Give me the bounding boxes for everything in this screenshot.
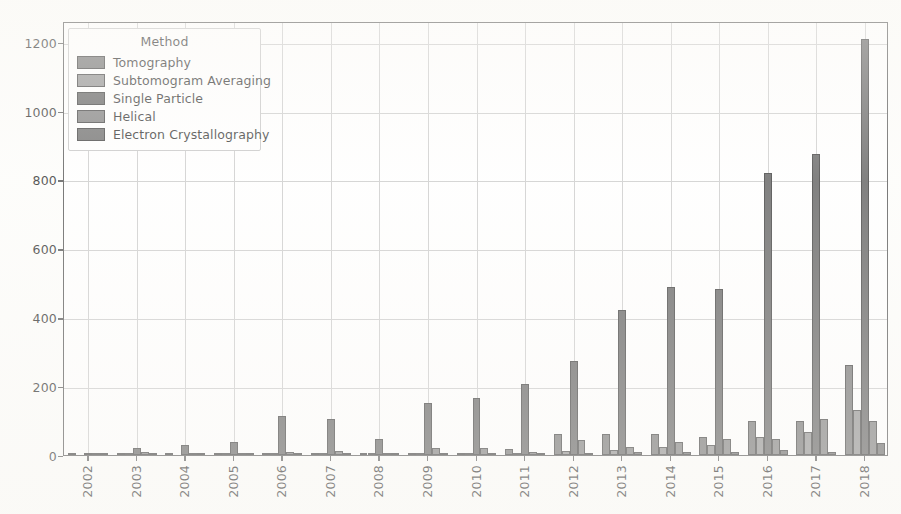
legend-label: Subtomogram Averaging <box>113 73 271 88</box>
bar <box>222 453 230 455</box>
x-axis-tick-label: 2015 <box>711 465 726 498</box>
bar <box>214 453 222 455</box>
x-axis-tick-label: 2009 <box>420 465 435 498</box>
y-axis-tick-label: 1200 <box>24 35 57 50</box>
bar <box>375 439 383 455</box>
bar <box>230 442 238 455</box>
legend-entries: TomographySubtomogram AveragingSingle Pa… <box>77 53 252 143</box>
bar <box>149 453 157 455</box>
bar <box>335 451 343 455</box>
x-axis-tick-label: 2018 <box>857 465 872 498</box>
x-axis-tick-mark <box>330 456 331 461</box>
bar <box>731 452 739 455</box>
x-axis-tick-mark <box>573 456 574 461</box>
bar <box>715 289 723 455</box>
legend-entry-tomography: Tomography <box>77 53 252 71</box>
bar <box>820 419 828 455</box>
bar <box>723 439 731 455</box>
bar <box>562 451 570 455</box>
bar <box>610 450 618 455</box>
y-axis-tick-label: 1000 <box>24 104 57 119</box>
bar <box>197 453 205 455</box>
legend-swatch-icon <box>77 56 105 69</box>
y-axis-tick-mark <box>58 456 63 457</box>
bar <box>845 365 853 455</box>
x-axis-tick-label: 2007 <box>323 465 338 498</box>
bar <box>343 453 351 455</box>
bar <box>861 39 869 455</box>
bar <box>133 448 141 455</box>
bar <box>165 453 173 455</box>
legend-entry-helical: Helical <box>77 107 252 125</box>
legend-label: Tomography <box>113 55 191 70</box>
x-axis-tick-label: 2016 <box>760 465 775 498</box>
bar <box>319 453 327 455</box>
x-axis-tick-mark <box>281 456 282 461</box>
y-axis-tick-label: 0 <box>49 449 57 464</box>
x-axis-tick-label: 2003 <box>129 465 144 498</box>
bar <box>570 361 578 455</box>
bar <box>675 442 683 455</box>
bar <box>529 452 537 455</box>
bar <box>651 434 659 455</box>
bar <box>521 384 529 455</box>
bar <box>278 416 286 455</box>
bar <box>368 453 376 455</box>
bar <box>457 453 465 455</box>
bar <box>473 398 481 455</box>
bar <box>125 453 133 455</box>
bar <box>699 437 707 455</box>
y-axis-tick-label: 200 <box>33 380 57 395</box>
bar <box>780 450 788 455</box>
x-axis-tick-label: 2008 <box>371 465 386 498</box>
legend-swatch-icon <box>77 92 105 105</box>
bar <box>440 453 448 455</box>
bar <box>391 453 399 455</box>
bar <box>618 310 626 455</box>
bar <box>505 449 513 455</box>
chart-legend: Method TomographySubtomogram AveragingSi… <box>68 28 261 151</box>
y-axis-labels: 020040060080010001200 <box>0 0 57 514</box>
bar <box>432 448 440 455</box>
bar <box>804 432 812 455</box>
x-axis-tick-label: 2011 <box>517 465 532 498</box>
bar <box>286 452 294 455</box>
x-axis-tick-mark <box>864 456 865 461</box>
x-axis-tick-mark <box>767 456 768 461</box>
bar <box>238 453 246 455</box>
legend-swatch-icon <box>77 74 105 87</box>
x-axis-tick-label: 2004 <box>177 465 192 498</box>
bar <box>270 453 278 455</box>
bar <box>554 434 562 455</box>
x-axis-tick-mark <box>378 456 379 461</box>
x-axis-tick-mark <box>233 456 234 461</box>
x-axis-tick-mark <box>184 456 185 461</box>
bar <box>416 453 424 455</box>
legend-label: Electron Crystallography <box>113 127 270 142</box>
x-axis-tick-mark <box>621 456 622 461</box>
bar <box>465 453 473 455</box>
x-axis-tick-label: 2013 <box>614 465 629 498</box>
legend-label: Helical <box>113 109 156 124</box>
bar <box>683 452 691 455</box>
x-axis-tick-mark <box>476 456 477 461</box>
bar-chart-figure: 020040060080010001200 200220032004200520… <box>0 0 901 514</box>
bar <box>488 453 496 455</box>
bar <box>756 437 764 455</box>
bar <box>877 443 885 455</box>
bar <box>828 452 836 455</box>
bar <box>748 421 756 455</box>
legend-swatch-icon <box>77 110 105 123</box>
bar <box>796 421 804 455</box>
bar <box>100 453 108 455</box>
bar <box>189 453 197 455</box>
bar <box>424 403 432 455</box>
bar <box>853 410 861 455</box>
x-axis-tick-mark <box>718 456 719 461</box>
legend-title: Method <box>77 34 252 49</box>
x-axis-tick-mark <box>87 456 88 461</box>
bar <box>513 453 521 455</box>
bar <box>812 154 820 455</box>
legend-label: Single Particle <box>113 91 203 106</box>
y-axis-tick-label: 400 <box>33 311 57 326</box>
